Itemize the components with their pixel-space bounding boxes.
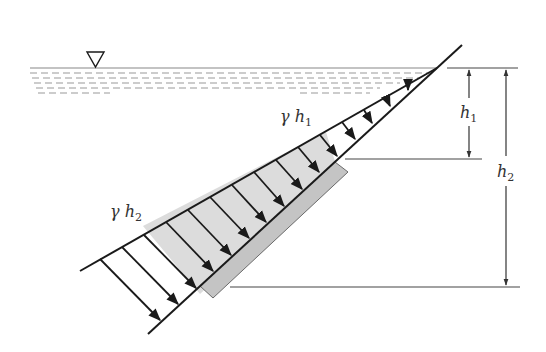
- diagram-canvas: γ h1 γ h2 h1 h2: [0, 0, 546, 352]
- label-h2: h2: [497, 162, 514, 184]
- pressure-diagram: γ h1 γ h2 h1 h2: [0, 0, 546, 352]
- label-gamma-h1: γ h1: [280, 107, 312, 129]
- free-surface-symbol-icon: [87, 52, 104, 67]
- water-surface: [30, 68, 437, 93]
- label-h1: h1: [460, 103, 477, 125]
- label-gamma-h2: γ h2: [110, 202, 142, 224]
